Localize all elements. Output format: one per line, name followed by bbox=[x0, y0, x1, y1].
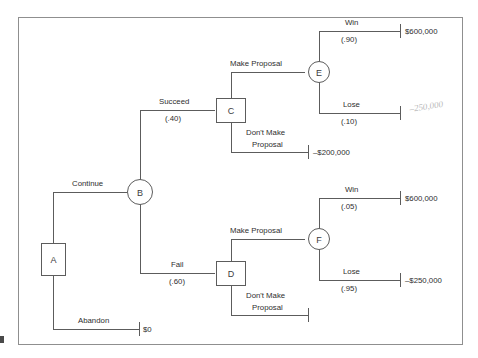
edge-label-e-win: Win bbox=[345, 18, 358, 27]
node-a[interactable]: A bbox=[42, 244, 66, 276]
payoff-abandon: $0 bbox=[143, 325, 152, 334]
edge-prob-f-lose: (.95) bbox=[341, 284, 357, 293]
payoff-e-win: $600,000 bbox=[405, 27, 438, 36]
edge-label-continue: Continue bbox=[72, 179, 103, 188]
edge-label-d-make-proposal: Make Proposal bbox=[230, 226, 282, 235]
node-a-label: A bbox=[50, 255, 56, 265]
edge-label-d-dont-make-line2: Proposal bbox=[252, 303, 283, 312]
edge-e-win bbox=[319, 31, 400, 62]
edge-label-d-dont-make-line1: Don't Make bbox=[246, 291, 285, 300]
edge-c-make-proposal bbox=[231, 72, 305, 98]
edge-prob-e-lose: (.10) bbox=[341, 117, 357, 126]
node-b[interactable]: B bbox=[128, 180, 153, 205]
decision-tree-svg: A B C D E F Continue Abandon bbox=[0, 0, 478, 358]
edge-prob-f-win: (.05) bbox=[341, 202, 357, 211]
node-e-label: E bbox=[316, 68, 322, 78]
edge-label-c-make-proposal: Make Proposal bbox=[230, 59, 282, 68]
edge-prob-e-win: (.90) bbox=[341, 35, 357, 44]
node-d[interactable]: D bbox=[217, 262, 246, 286]
payoff-f-win: $600,000 bbox=[405, 194, 438, 203]
scan-artifact-mark bbox=[0, 336, 4, 343]
edge-label-c-dont-make-line2: Proposal bbox=[252, 140, 283, 149]
edge-label-e-lose: Lose bbox=[343, 100, 360, 109]
node-f-label: F bbox=[316, 235, 322, 245]
edge-d-make-proposal bbox=[231, 239, 305, 261]
edge-label-c-dont-make-line1: Don't Make bbox=[246, 128, 285, 137]
node-e[interactable]: E bbox=[309, 62, 330, 83]
edge-label-f-lose: Lose bbox=[343, 267, 360, 276]
handwritten-annotation-e-lose: –250,000 bbox=[408, 99, 444, 114]
edge-prob-succeed: (.40) bbox=[165, 114, 181, 123]
node-c-label: C bbox=[228, 106, 235, 116]
edge-label-f-win: Win bbox=[345, 185, 358, 194]
edge-label-fail: Fail bbox=[171, 260, 184, 269]
decision-tree-canvas: A B C D E F Continue Abandon bbox=[0, 0, 478, 358]
node-f[interactable]: F bbox=[309, 229, 330, 250]
payoff-c-dont: –$200,000 bbox=[313, 148, 351, 157]
edge-label-succeed: Succeed bbox=[159, 97, 189, 106]
edge-f-win bbox=[319, 198, 400, 229]
edge-prob-fail: (.60) bbox=[169, 277, 185, 286]
edge-label-abandon: Abandon bbox=[78, 316, 109, 325]
node-c[interactable]: C bbox=[217, 99, 246, 123]
payoff-f-lose: –$250,000 bbox=[405, 276, 443, 285]
node-d-label: D bbox=[228, 269, 235, 279]
node-b-label: B bbox=[137, 188, 143, 198]
edge-a-continue bbox=[54, 192, 128, 243]
